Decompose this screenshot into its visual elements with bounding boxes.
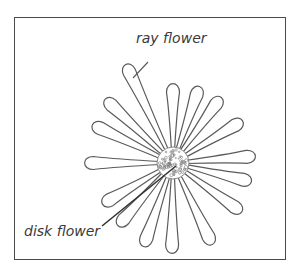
disk-flower-label: disk flower (24, 223, 100, 239)
ray-petal (166, 175, 179, 253)
ray-petal (104, 97, 166, 156)
ray-petal (179, 96, 223, 154)
disk-center (157, 147, 189, 179)
ray-petal (85, 157, 161, 170)
ray-petal (122, 64, 169, 153)
ray-petal (167, 84, 180, 151)
ray-petal (140, 174, 171, 247)
ray-petal (177, 173, 216, 245)
ray-petal (183, 118, 244, 158)
ray-flower-label: ray flower (136, 30, 207, 46)
